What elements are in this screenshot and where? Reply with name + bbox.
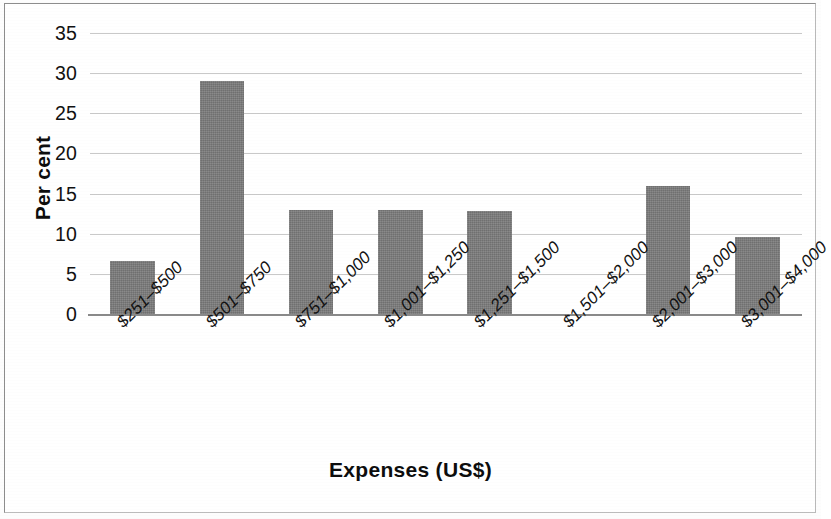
gridline — [88, 33, 802, 34]
y-axis-tick-label: 25 — [55, 102, 77, 125]
gridline — [88, 113, 802, 114]
y-axis-tick-label: 5 — [66, 262, 77, 285]
y-axis-tick-label: 0 — [66, 303, 77, 326]
y-axis-tick-label: 10 — [55, 222, 77, 245]
bar — [200, 81, 245, 314]
y-axis-title-label: Per cent — [31, 136, 55, 220]
y-axis-tick-label: 15 — [55, 182, 77, 205]
y-axis-tick-label: 35 — [55, 22, 77, 45]
x-axis-title: Expenses (US$) — [0, 458, 821, 482]
x-axis-tick-labels: $251–$500$501–$750$751–$1,000$1,001–$1,2… — [88, 318, 802, 448]
y-axis-tick-label: 30 — [55, 62, 77, 85]
gridline — [88, 234, 802, 235]
gridline — [88, 73, 802, 74]
y-axis-line — [88, 33, 90, 314]
gridline — [88, 153, 802, 154]
x-axis-baseline — [88, 314, 802, 316]
gridline — [88, 194, 802, 195]
y-axis-tick-label: 20 — [55, 142, 77, 165]
